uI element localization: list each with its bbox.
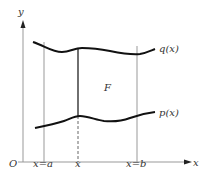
lower-curve-label: p(x) (159, 107, 179, 118)
x-equals-b-label: x=b (126, 158, 146, 169)
x-equals-a-label: x=a (33, 158, 53, 169)
y-axis-arrow-icon (21, 20, 26, 28)
y-axis (21, 20, 26, 162)
y-axis-label: y (17, 6, 24, 17)
x-variable-label: x (75, 158, 81, 169)
upper-curve-label: q(x) (159, 43, 179, 54)
area-between-curves-diagram: y x O q(x) p(x) F x=a x x=b (0, 0, 199, 169)
origin-label: O (9, 158, 17, 169)
x-axis-label: x (193, 157, 199, 168)
x-axis-arrow-icon (184, 160, 192, 165)
region-label: F (103, 82, 112, 93)
